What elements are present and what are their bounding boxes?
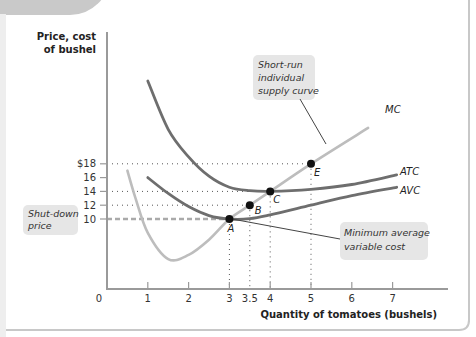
x-tick-label: 3.5 [242, 293, 258, 304]
point-label-e: E [314, 167, 321, 178]
curve-mc [127, 128, 368, 260]
curve-labels: MCATCAVC [385, 104, 420, 196]
point-a [225, 215, 233, 223]
point-label-a: A [226, 223, 234, 234]
point-label-b: B [255, 205, 262, 216]
cost-curves-chart: Price, cost of bushel Quantity of tomato… [0, 0, 476, 337]
y-axis-title-line1: Price, cost [37, 31, 96, 42]
curve-label-avc: AVC [399, 185, 420, 196]
note-supply-curve-leader [300, 99, 326, 144]
y-tick-label: 12 [83, 200, 96, 211]
x-tick-label: 0 [96, 293, 102, 304]
points: ABCE [225, 160, 321, 234]
note-shutdown-text: Shut-down [28, 208, 79, 219]
x-tick-label: 4 [267, 293, 273, 304]
figure-frame: Price, cost of bushel Quantity of tomato… [0, 0, 476, 337]
guide-lines [107, 164, 311, 289]
note-supply-curve-text: individual [258, 72, 304, 83]
x-axis-title: Quantity of tomatoes (bushels) [260, 309, 437, 320]
y-tick-label: 16 [83, 172, 96, 183]
note-min-avc-text: Minimum average [344, 227, 430, 238]
note-shutdown-text: price [27, 220, 52, 231]
y-tick-label: $18 [77, 158, 96, 169]
curve-label-atc: ATC [399, 166, 419, 177]
x-tick-label: 6 [349, 293, 355, 304]
curve-label-mc: MC [385, 104, 401, 115]
point-label-c: C [273, 194, 280, 205]
point-b [246, 201, 254, 209]
x-tick-label: 2 [185, 293, 191, 304]
y-axis-title-line2: of bushel [44, 44, 96, 55]
y-tick-label: 14 [83, 186, 96, 197]
x-tick-label: 5 [308, 293, 314, 304]
note-supply-curve-text: Short-run [258, 59, 303, 70]
x-tick-label: 1 [145, 293, 151, 304]
note-min-avc-text: variable cost [344, 241, 406, 252]
x-tick-label: 3 [226, 293, 232, 304]
bottom-border [6, 320, 469, 330]
note-supply-curve-text: supply curve [258, 85, 319, 96]
x-ticks: 01233.54567 [96, 282, 396, 304]
note-min-avc-leader [232, 219, 340, 239]
y-tick-label: 10 [83, 214, 96, 225]
x-tick-label: 7 [389, 293, 395, 304]
